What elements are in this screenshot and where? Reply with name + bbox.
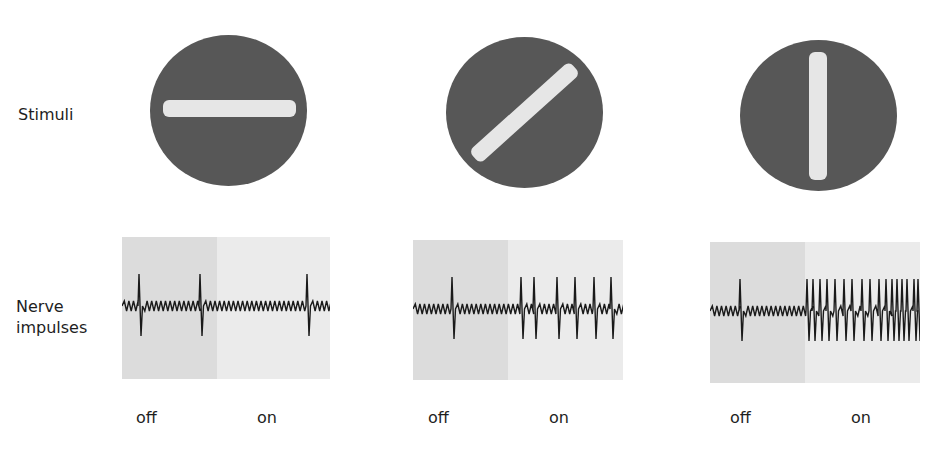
impulse-trace-path	[710, 279, 920, 341]
nerve-label-line1: Nerve	[16, 296, 87, 317]
nerve-label-line2: impulses	[16, 317, 87, 338]
impulse-trace-path	[122, 274, 330, 336]
recording-panel-horizontal	[122, 237, 330, 379]
stimulus-disc-diagonal	[446, 37, 603, 188]
vertical-bar	[809, 52, 827, 180]
stimulus-disc-vertical	[740, 40, 897, 191]
stimulus-disc-horizontal	[150, 35, 307, 186]
recording-panel-diagonal	[413, 240, 623, 380]
horizontal-bar	[163, 100, 296, 117]
off-label-1: off	[136, 408, 157, 427]
recording-panel-vertical	[710, 242, 920, 383]
on-label-2: on	[549, 408, 569, 427]
on-label-1: on	[257, 408, 277, 427]
nerve-trace	[413, 240, 623, 380]
diagonal-bar	[469, 61, 581, 164]
off-label-3: off	[730, 408, 751, 427]
nerve-trace	[710, 242, 920, 383]
off-label-2: off	[428, 408, 449, 427]
nerve-trace	[122, 237, 330, 379]
on-label-3: on	[851, 408, 871, 427]
nerve-impulses-row-label: Nerve impulses	[16, 296, 87, 338]
impulse-trace-path	[413, 277, 623, 339]
stimuli-row-label: Stimuli	[18, 104, 74, 125]
